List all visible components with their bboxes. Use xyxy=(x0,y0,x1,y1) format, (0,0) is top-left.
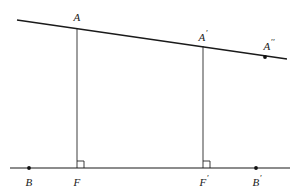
transversal-line xyxy=(17,20,287,59)
label-fprime: F′ xyxy=(200,174,209,188)
label-bprime: B′ xyxy=(253,174,262,188)
label-aprime-base: A xyxy=(199,31,206,43)
label-f: F xyxy=(74,174,81,188)
right-angle-at-fprime xyxy=(203,161,210,168)
label-f-base: F xyxy=(74,176,81,188)
label-aprime-primes: ′ xyxy=(205,28,207,38)
label-adoubleprime: A′′ xyxy=(264,38,275,52)
label-b: B xyxy=(26,174,33,188)
label-adoubleprime-primes: ′′ xyxy=(270,37,274,47)
geometry-canvas xyxy=(0,0,296,194)
dot-b xyxy=(27,166,31,170)
dot-bprime xyxy=(254,166,258,170)
label-fprime-base: F xyxy=(200,176,207,188)
geometry-figure: A A′ A′′ B F F′ B′ xyxy=(0,0,296,194)
label-a-base: A xyxy=(74,11,81,23)
dot-adoubleprime xyxy=(263,55,267,59)
label-aprime: A′ xyxy=(199,29,208,43)
label-b-base: B xyxy=(26,176,33,188)
right-angle-at-f xyxy=(77,161,84,168)
label-bprime-base: B xyxy=(253,176,260,188)
label-bprime-primes: ′ xyxy=(259,173,261,183)
label-a: A xyxy=(74,9,81,23)
label-adoubleprime-base: A xyxy=(264,40,271,52)
label-fprime-primes: ′ xyxy=(206,173,208,183)
